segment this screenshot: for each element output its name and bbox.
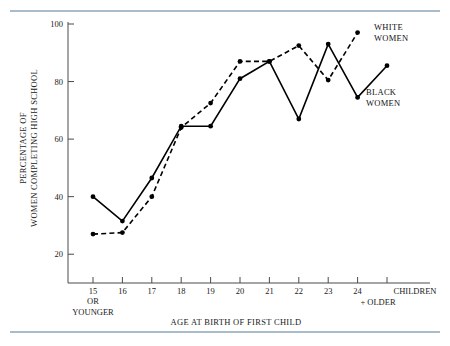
x-tick-label-21: 21	[265, 286, 274, 296]
x-tick-15-sublabel-or: OR	[87, 296, 99, 306]
x-tick-label-24: 24	[353, 286, 362, 296]
data-point-white-women-16	[120, 230, 125, 235]
data-point-black-women-23	[326, 42, 331, 47]
data-point-black-women-CHILDREN	[385, 63, 390, 68]
y-tick-label-60: 60	[55, 134, 64, 144]
x-tick-label-22: 22	[295, 286, 304, 296]
chart-figure: 20406080100 15161718192021222324 PERCENT…	[0, 0, 450, 346]
x-tick-label-20: 20	[236, 286, 245, 296]
y-tick-label-40: 40	[55, 192, 64, 202]
x-tick-label-17: 17	[148, 286, 157, 296]
data-point-white-women-24	[355, 30, 360, 35]
data-point-white-women-17	[149, 194, 154, 199]
y-tick-label-100: 100	[50, 19, 63, 29]
data-point-white-women-22	[296, 43, 301, 48]
x-axis-ticks	[93, 277, 387, 283]
legend-white-women-line2: WOMEN	[374, 33, 409, 43]
data-point-black-women-20	[238, 76, 243, 81]
data-point-white-women-19	[208, 101, 213, 106]
series-line-white-women	[93, 33, 358, 235]
x-tick-label-16: 16	[118, 286, 127, 296]
data-point-black-women-24	[355, 95, 360, 100]
legend-black-women-line2: WOMEN	[366, 98, 401, 108]
legend-black-women-line1: BLACK	[366, 87, 397, 97]
y-tick-label-80: 80	[55, 77, 64, 87]
series-line-black-women	[93, 44, 387, 221]
data-point-white-women-20	[238, 59, 243, 64]
data-point-black-women-15	[91, 194, 96, 199]
chart-series-layer	[91, 30, 390, 236]
y-tick-label-20: 20	[55, 249, 64, 259]
data-point-white-women-21	[267, 59, 272, 64]
y-axis-label-line2: WOMEN COMPLETING HIGH SCHOOL	[29, 69, 39, 227]
data-point-black-women-19	[208, 124, 213, 129]
x-tick-label-15: 15	[89, 286, 98, 296]
x-axis-tick-labels: 15161718192021222324	[89, 286, 363, 296]
y-axis-ticks	[68, 24, 74, 254]
x-tick-15-sublabel-younger: YOUNGER	[72, 307, 114, 317]
x-tick-label-23: 23	[324, 286, 333, 296]
x-tick-older-sublabel: + OLDER	[360, 297, 396, 307]
line-chart-svg: 20406080100 15161718192021222324 PERCENT…	[0, 0, 450, 346]
legend-white-women-line1: WHITE	[374, 22, 403, 32]
x-tick-label-19: 19	[206, 286, 215, 296]
y-axis-label-line1: PERCENTAGE OF	[18, 112, 28, 183]
data-point-white-women-15	[91, 232, 96, 237]
x-tick-children-label: CHILDREN	[394, 286, 437, 296]
x-axis-label: AGE AT BIRTH OF FIRST CHILD	[171, 317, 302, 327]
data-point-black-women-16	[120, 219, 125, 224]
data-point-black-women-22	[296, 117, 301, 122]
x-tick-label-18: 18	[177, 286, 186, 296]
data-point-white-women-23	[326, 78, 331, 83]
data-point-white-women-18	[179, 125, 184, 130]
data-point-black-women-17	[149, 176, 154, 181]
y-axis-tick-labels: 20406080100	[50, 19, 63, 259]
